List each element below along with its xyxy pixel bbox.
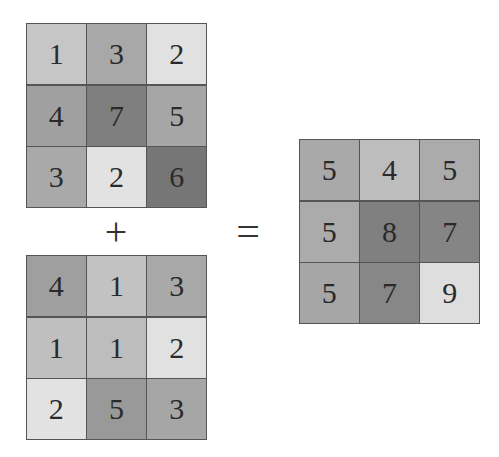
matrix-b-cell: 3	[147, 256, 206, 316]
matrix-b: 4 1 3 1 1 2 2 5 3	[26, 255, 207, 440]
matrix-a-cell: 7	[87, 86, 146, 146]
plus-operator: +	[96, 212, 136, 252]
equals-operator: =	[228, 210, 268, 250]
matrix-a-cell: 3	[27, 147, 86, 207]
matrix-b-cell: 3	[147, 379, 206, 439]
matrix-a-cell: 6	[147, 147, 206, 207]
matrix-b-cell: 2	[27, 379, 86, 439]
matrix-result: 5 4 5 5 8 7 5 7 9	[299, 139, 480, 324]
matrix-a-cell: 2	[87, 147, 146, 207]
matrix-a-cell: 2	[147, 24, 206, 84]
matrix-b-cell: 1	[87, 318, 146, 378]
matrix-a-cell: 3	[87, 24, 146, 84]
matrix-a-cell: 5	[147, 86, 206, 146]
matrix-b-cell: 1	[87, 256, 146, 316]
matrix-result-cell: 5	[420, 140, 479, 200]
matrix-result-cell: 5	[300, 263, 359, 323]
matrix-result-cell: 7	[420, 202, 479, 262]
matrix-result-cell: 7	[360, 263, 419, 323]
matrix-b-cell: 4	[27, 256, 86, 316]
matrix-result-cell: 5	[300, 140, 359, 200]
matrix-b-cell: 2	[147, 318, 206, 378]
matrix-result-cell: 8	[360, 202, 419, 262]
matrix-b-cell: 1	[27, 318, 86, 378]
matrix-a-cell: 4	[27, 86, 86, 146]
matrix-b-cell: 5	[87, 379, 146, 439]
matrix-result-cell: 4	[360, 140, 419, 200]
matrix-result-cell: 9	[420, 263, 479, 323]
matrix-a-cell: 1	[27, 24, 86, 84]
matrix-result-cell: 5	[300, 202, 359, 262]
matrix-a: 1 3 2 4 7 5 3 2 6	[26, 23, 207, 208]
